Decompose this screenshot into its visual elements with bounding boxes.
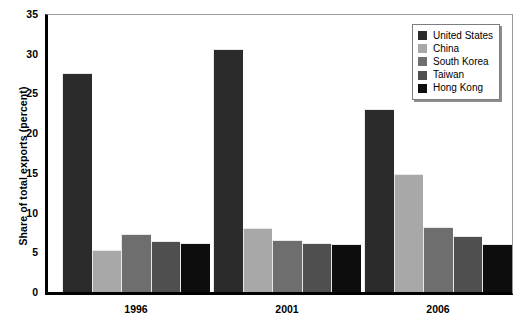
bar — [394, 174, 424, 292]
legend-item: United States — [417, 29, 493, 42]
bar — [272, 240, 302, 292]
legend-item: Taiwan — [417, 69, 493, 82]
legend-swatch-icon — [417, 70, 428, 81]
y-tick-label: 35 — [0, 8, 38, 20]
y-tick-label: 5 — [0, 246, 38, 258]
legend-label: South Korea — [433, 57, 489, 67]
bar — [62, 73, 92, 292]
bar — [92, 250, 122, 292]
bar — [243, 228, 273, 292]
bar — [180, 243, 210, 292]
y-tick-label: 30 — [0, 48, 38, 60]
x-axis-label: 1996 — [124, 303, 147, 315]
bar — [121, 234, 151, 292]
legend-label: China — [433, 44, 459, 54]
y-tick-label: 0 — [0, 286, 38, 298]
bar — [331, 244, 361, 292]
bar — [213, 49, 243, 292]
legend-item: South Korea — [417, 55, 493, 68]
bar-chart: Share of total exports (percent) 0510152… — [0, 0, 522, 336]
chart-legend: United StatesChinaSouth KoreaTaiwanHong … — [412, 24, 500, 100]
legend-swatch-icon — [417, 43, 428, 54]
legend-swatch-icon — [417, 83, 428, 94]
bar — [364, 109, 394, 292]
bar-group — [62, 14, 210, 292]
legend-swatch-icon — [417, 30, 428, 41]
bar — [482, 244, 512, 292]
y-tick-label: 20 — [0, 127, 38, 139]
legend-item: China — [417, 42, 493, 55]
y-tick-label: 10 — [0, 207, 38, 219]
bar — [302, 243, 332, 292]
legend-label: United States — [433, 31, 493, 41]
legend-item: Hong Kong — [417, 82, 493, 95]
bar-group — [213, 14, 361, 292]
legend-label: Hong Kong — [433, 83, 483, 93]
y-tick-label: 25 — [0, 87, 38, 99]
x-axis-label: 2006 — [426, 303, 449, 315]
legend-swatch-icon — [417, 56, 428, 67]
bar — [151, 241, 181, 292]
legend-label: Taiwan — [433, 70, 464, 80]
bar — [423, 227, 453, 292]
x-axis-label: 2001 — [275, 303, 298, 315]
y-tick-label: 15 — [0, 167, 38, 179]
bar — [453, 236, 483, 292]
